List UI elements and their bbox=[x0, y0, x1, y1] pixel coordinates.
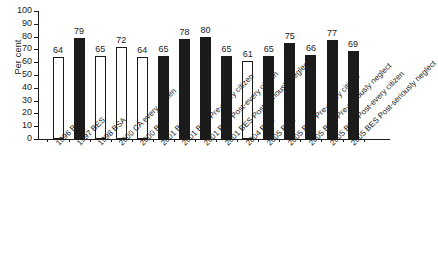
bar-value-label: 64 bbox=[48, 45, 69, 55]
bar-value-label: 61 bbox=[237, 49, 258, 59]
x-axis-labels: 1996 BSA1997 BES1998 BSA2000 CA every ci… bbox=[38, 141, 408, 256]
bar-value-label: 65 bbox=[216, 44, 237, 54]
bar-value-label: 64 bbox=[132, 45, 153, 55]
bar-value-label: 65 bbox=[90, 44, 111, 54]
bar-value-label: 79 bbox=[69, 26, 90, 36]
y-tick-label: 20 bbox=[22, 107, 32, 118]
y-tick-label: 50 bbox=[22, 69, 32, 80]
bar-value-label: 69 bbox=[343, 39, 364, 49]
bar-value-label: 77 bbox=[322, 28, 343, 38]
bar bbox=[53, 57, 64, 139]
y-tick-mark bbox=[34, 139, 38, 140]
y-tick-label: 100 bbox=[17, 5, 32, 16]
y-tick-label: 30 bbox=[22, 95, 32, 106]
bar-value-label: 65 bbox=[153, 44, 174, 54]
y-tick-label: 0 bbox=[27, 133, 32, 144]
bar-value-label: 78 bbox=[174, 27, 195, 37]
bar-value-label: 75 bbox=[279, 31, 300, 41]
bar-value-label: 80 bbox=[195, 25, 216, 35]
y-tick-label: 40 bbox=[22, 82, 32, 93]
bar-slot: 64 bbox=[47, 11, 68, 139]
y-tick-label: 70 bbox=[22, 43, 32, 54]
bar-value-label: 66 bbox=[300, 43, 321, 53]
y-tick-label: 80 bbox=[22, 31, 32, 42]
bar-value-label: 72 bbox=[111, 35, 132, 45]
y-tick-label: 90 bbox=[22, 18, 32, 29]
y-tick-label: 10 bbox=[22, 120, 32, 131]
bar-value-label: 65 bbox=[258, 44, 279, 54]
y-tick-label: 60 bbox=[22, 56, 32, 67]
